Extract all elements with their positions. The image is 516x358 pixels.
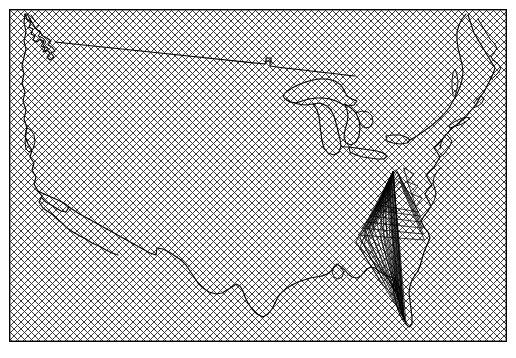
map-figure-root	[0, 0, 516, 358]
map-canvas	[0, 0, 516, 358]
hatch-fill-area	[10, 10, 507, 342]
